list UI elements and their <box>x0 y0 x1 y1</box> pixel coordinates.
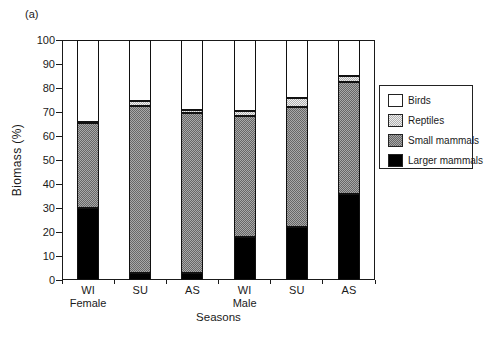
bar-segment-birds <box>234 40 256 111</box>
y-axis-tick <box>56 64 62 65</box>
y-axis-tick-label: 30 <box>19 202 55 214</box>
y-axis-tick-label: 100 <box>19 34 55 46</box>
x-axis-tick <box>218 280 219 284</box>
bar-segment-reptiles <box>77 122 99 124</box>
y-axis-tick <box>56 160 62 161</box>
bar-segment-reptiles <box>286 98 308 108</box>
bar-segment-birds <box>181 40 203 110</box>
y-axis-tick-label: 90 <box>19 58 55 70</box>
x-category-label: AS <box>331 284 367 296</box>
legend-swatch-larger_mammals <box>388 154 403 167</box>
y-axis-tick-label: 0 <box>19 274 55 286</box>
y-axis-tick <box>56 40 62 41</box>
bar-segment-larger_mammals <box>338 194 360 280</box>
legend-item: Birds <box>388 94 470 107</box>
legend-label: Birds <box>408 95 431 107</box>
y-axis-tick <box>56 88 62 89</box>
x-axis-tick <box>166 280 167 284</box>
legend-item: Small mammals <box>388 134 470 147</box>
plot-area <box>62 40 375 280</box>
bar-segment-birds <box>338 40 360 76</box>
bar-segment-small_mammals <box>181 113 203 273</box>
legend-label: Reptiles <box>408 115 444 127</box>
x-category-label: SU <box>279 284 315 296</box>
x-group-label: Male <box>220 297 270 309</box>
bar-segment-larger_mammals <box>77 208 99 280</box>
x-axis-tick <box>322 280 323 284</box>
legend-item: Larger mammals <box>388 154 470 167</box>
x-axis-tick <box>62 280 63 284</box>
bar-segment-reptiles <box>129 101 151 106</box>
figure: (a) Biomass (%) Seasons BirdsReptilesSma… <box>0 0 495 344</box>
bar-segment-birds <box>286 40 308 98</box>
y-axis-tick-label: 60 <box>19 130 55 142</box>
bar-segment-reptiles <box>338 76 360 82</box>
legend-swatch-small_mammals <box>388 134 403 147</box>
y-axis-tick <box>56 232 62 233</box>
figure-panel-label: (a) <box>25 8 38 20</box>
bar-segment-reptiles <box>181 110 203 114</box>
legend-label: Larger mammals <box>408 155 483 167</box>
x-axis-tick <box>114 280 115 284</box>
bar-segment-larger_mammals <box>129 273 151 280</box>
y-axis-tick <box>56 112 62 113</box>
y-axis-tick-label: 70 <box>19 106 55 118</box>
y-axis-tick <box>56 184 62 185</box>
legend-label: Small mammals <box>408 135 479 147</box>
bar-segment-larger_mammals <box>181 273 203 280</box>
bar-segment-larger_mammals <box>286 227 308 280</box>
x-category-label: WI <box>70 284 106 296</box>
y-axis-tick-label: 20 <box>19 226 55 238</box>
y-axis-tick-label: 10 <box>19 250 55 262</box>
bar-segment-small_mammals <box>129 106 151 273</box>
bar-segment-small_mammals <box>234 116 256 237</box>
bar-segment-birds <box>129 40 151 101</box>
bar-segment-small_mammals <box>338 82 360 194</box>
y-axis-tick <box>56 136 62 137</box>
x-axis-title: Seasons <box>174 311 264 324</box>
bar-segment-larger_mammals <box>234 237 256 280</box>
y-axis-tick-label: 40 <box>19 178 55 190</box>
bar-segment-reptiles <box>234 111 256 116</box>
x-category-label: SU <box>122 284 158 296</box>
x-category-label: WI <box>227 284 263 296</box>
y-axis-tick-label: 80 <box>19 82 55 94</box>
legend-item: Reptiles <box>388 114 470 127</box>
y-axis-tick <box>56 208 62 209</box>
y-axis-tick <box>56 256 62 257</box>
bar-segment-small_mammals <box>77 123 99 208</box>
x-axis-tick <box>375 280 376 284</box>
x-category-label: AS <box>174 284 210 296</box>
legend-swatch-reptiles <box>388 114 403 127</box>
bar-segment-birds <box>77 40 99 122</box>
x-group-label: Female <box>63 297 113 309</box>
y-axis-tick-label: 50 <box>19 154 55 166</box>
legend-swatch-birds <box>388 94 403 107</box>
bar-segment-small_mammals <box>286 107 308 227</box>
x-axis-tick <box>270 280 271 284</box>
legend: BirdsReptilesSmall mammalsLarger mammals <box>379 85 473 169</box>
